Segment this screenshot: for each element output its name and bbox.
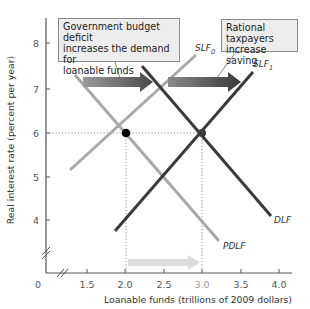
x-tick-3-5: 3.5 xyxy=(233,279,248,290)
x-tick-3-0: 3.0 xyxy=(194,279,209,290)
y-axis-title: Real interest rate (percent per year) xyxy=(5,56,16,224)
x-tick-1-5: 1.5 xyxy=(79,279,94,290)
slf0-label: SLF0 xyxy=(195,43,215,56)
pdlf-label: PDLF xyxy=(223,241,246,251)
funds-increase-arrow xyxy=(128,255,200,270)
x-tick-2-5: 2.5 xyxy=(156,279,171,290)
y-tick-7: 7 xyxy=(33,84,39,95)
supply-shift-arrow xyxy=(168,72,241,92)
guide-lines xyxy=(46,133,202,273)
final-equilibrium-point xyxy=(198,129,206,137)
x-axis-title: Loanable funds (trillions of 2009 dollar… xyxy=(104,294,292,305)
y-tick-8: 8 xyxy=(33,38,39,49)
y-tick-6: 6 xyxy=(33,128,39,139)
saving-callout: Rational taxpayers increase saving xyxy=(221,19,298,52)
y-tick-4: 4 xyxy=(33,215,39,226)
deficit-callout: Government budget deficit increases the … xyxy=(58,18,180,62)
dlf-label: DLF xyxy=(274,215,292,225)
initial-equilibrium-point xyxy=(122,129,131,138)
y-tick-5: 5 xyxy=(33,172,39,183)
x-tick-4-0: 4.0 xyxy=(271,279,286,290)
x-tick-2-0: 2.0 xyxy=(117,279,132,290)
slf1-curve xyxy=(115,72,253,231)
dlf-curve xyxy=(142,66,271,216)
origin-label: 0 xyxy=(35,279,41,290)
